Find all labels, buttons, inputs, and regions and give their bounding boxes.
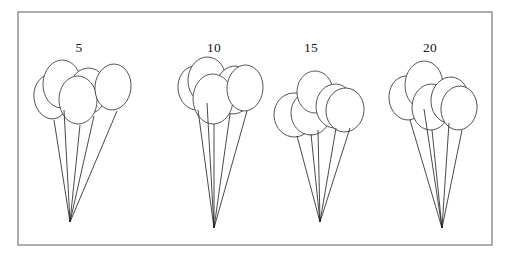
bunch-label: 10	[207, 40, 221, 55]
bunch-label: 20	[423, 40, 437, 55]
bunch-label: 5	[75, 40, 82, 55]
figure-root: 5101520	[0, 0, 509, 262]
bunch-label: 15	[304, 40, 318, 55]
balloon-bunches-figure: 5101520	[0, 0, 509, 262]
outer-border	[18, 12, 492, 245]
